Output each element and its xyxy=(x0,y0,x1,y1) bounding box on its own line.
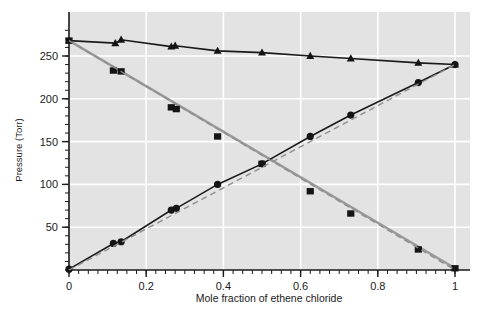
x-tick-label: 0.4 xyxy=(216,280,231,292)
y-tick-label: 150 xyxy=(40,136,58,148)
data-point-circle xyxy=(451,61,458,68)
x-tick-label: 0.8 xyxy=(370,280,385,292)
data-point-square xyxy=(173,106,180,112)
data-point-square xyxy=(214,133,221,139)
chart-container: 00.20.40.60.81 50100150200250 Mole fract… xyxy=(0,0,485,323)
x-tick-label: 1 xyxy=(452,280,458,292)
data-point-square xyxy=(307,188,314,194)
x-tick-label: 0 xyxy=(66,280,72,292)
y-tick-label: 50 xyxy=(46,221,58,233)
data-point-square xyxy=(347,210,354,216)
data-point-circle xyxy=(307,133,314,140)
y-tick-label: 200 xyxy=(40,93,58,105)
data-point-circle xyxy=(347,111,354,118)
y-tick-label: 250 xyxy=(40,50,58,62)
y-tick-label: 100 xyxy=(40,178,58,190)
x-axis-title: Mole fraction of ethene chloride xyxy=(196,292,343,304)
x-tick-label: 0.2 xyxy=(139,280,154,292)
pressure-vs-mole-fraction-chart: 00.20.40.60.81 50100150200250 Mole fract… xyxy=(0,0,485,323)
data-point-circle xyxy=(214,181,221,188)
y-axis-title: Pressure (Torr) xyxy=(13,118,24,181)
x-tick-label: 0.6 xyxy=(293,280,308,292)
